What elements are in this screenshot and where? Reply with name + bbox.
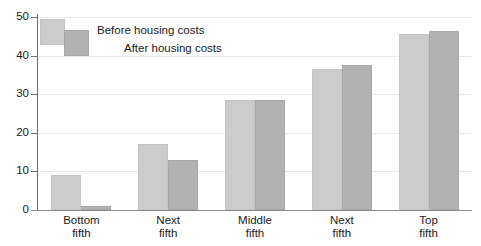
x-axis-category-label: Bottomfifth — [38, 214, 125, 239]
chart-legend: Before housing costs After housing costs — [40, 19, 270, 55]
bar-before-4 — [399, 34, 429, 210]
x-axis-category-label-line: Next — [298, 214, 385, 227]
y-axis-tick-label-text: 40 — [1, 50, 29, 62]
x-axis-category-label: Topfifth — [385, 214, 472, 239]
y-axis-tick-label-text: 30 — [1, 88, 29, 100]
y-axis-tick-label-text: 50 — [1, 11, 29, 23]
x-axis-category-label-line: Next — [125, 214, 212, 227]
bar-after-4 — [429, 31, 459, 210]
y-axis-tick-label-text: 20 — [1, 127, 29, 139]
bar-before-2 — [225, 100, 255, 210]
x-axis-category-label: Middlefifth — [212, 214, 299, 239]
x-axis-line — [31, 210, 472, 211]
x-axis-category-label-line: Bottom — [38, 214, 125, 227]
y-axis-tick-label: 10 — [0, 165, 29, 177]
legend-swatch-before — [40, 19, 65, 45]
y-axis-tick-label-text: 0 — [1, 204, 29, 216]
x-axis-category-label-line: fifth — [38, 227, 125, 240]
x-axis-category-label: Nextfifth — [298, 214, 385, 239]
bar-before-1 — [138, 144, 168, 210]
x-axis-category-label-line: fifth — [212, 227, 299, 240]
bar-after-1 — [168, 160, 198, 210]
y-axis-tick-label: 50 — [0, 11, 29, 23]
x-axis-category-label: Nextfifth — [125, 214, 212, 239]
y-axis-tick-label: 40 — [0, 50, 29, 62]
y-axis-tick-label: 20 — [0, 127, 29, 139]
x-axis-category-label-line: fifth — [298, 227, 385, 240]
y-axis-tick-label: 0 — [0, 204, 29, 216]
x-axis-category-label-line: Middle — [212, 214, 299, 227]
bar-after-0 — [81, 206, 111, 210]
legend-label-after: After housing costs — [124, 42, 222, 54]
legend-swatch-after — [64, 30, 89, 56]
y-axis-tick-label-text: 10 — [1, 165, 29, 177]
bar-before-0 — [51, 175, 81, 210]
x-axis-category-label-line: Top — [385, 214, 472, 227]
y-axis-tick-label: 30 — [0, 88, 29, 100]
x-axis-category-label-line: fifth — [385, 227, 472, 240]
legend-label-before: Before housing costs — [97, 24, 204, 36]
bar-before-3 — [312, 69, 342, 210]
bar-after-3 — [342, 65, 372, 210]
x-axis-category-label-line: fifth — [125, 227, 212, 240]
bar-chart: 01020304050 BottomfifthNextfifthMiddlefi… — [0, 0, 481, 246]
bar-after-2 — [255, 100, 285, 210]
